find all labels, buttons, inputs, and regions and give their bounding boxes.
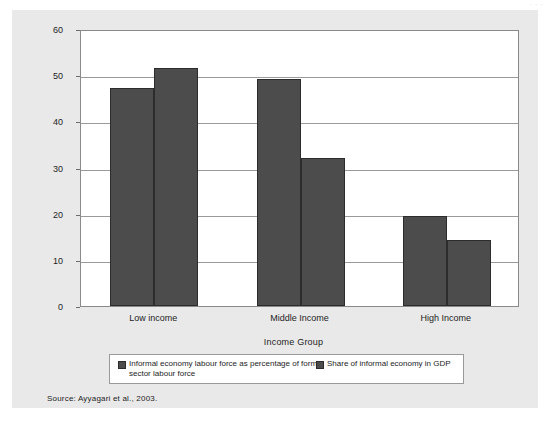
top-bleed-text: · · · — [0, 0, 549, 9]
plot-wrapper: Percentage 0102030405060 Low incomeMiddl… — [68, 30, 519, 307]
x-axis-title: Income Group — [68, 337, 519, 347]
chart-panel: Percentage 0102030405060 Low incomeMiddl… — [12, 10, 538, 408]
bar — [154, 68, 198, 306]
legend-swatch-icon — [118, 361, 126, 369]
y-tick-label: 30 — [23, 164, 63, 174]
y-tick-label: 10 — [23, 256, 63, 266]
legend-item-informal-labour-force: Informal economy labour force as percent… — [118, 359, 333, 379]
legend-swatch-icon — [316, 361, 324, 369]
plot-area — [80, 30, 519, 307]
x-tick-label: Low income — [129, 313, 177, 323]
y-tick-label: 40 — [23, 117, 63, 127]
bar-group — [403, 31, 491, 306]
bar — [403, 216, 447, 306]
x-tick-label: High Income — [421, 313, 472, 323]
x-tick-label: Middle Income — [270, 313, 329, 323]
legend: Informal economy labour force as percent… — [109, 354, 464, 384]
bar-group — [110, 31, 198, 306]
y-tick-label: 0 — [23, 302, 63, 312]
legend-item-informal-gdp-share: Share of informal economy in GDP — [316, 359, 466, 369]
bar-group — [257, 31, 345, 306]
y-tick-label: 50 — [23, 71, 63, 81]
bar — [257, 79, 301, 306]
legend-label: Informal economy labour force as percent… — [129, 359, 333, 379]
source-note: Source: Ayyagari et al., 2003. — [47, 394, 157, 403]
y-tick-mark — [76, 307, 80, 308]
bar — [110, 88, 154, 306]
figure-root: · · · Percentage 0102030405060 Low incom… — [0, 0, 549, 422]
bar — [301, 158, 345, 306]
legend-label: Share of informal economy in GDP — [327, 359, 451, 369]
y-tick-label: 20 — [23, 210, 63, 220]
y-tick-label: 60 — [23, 25, 63, 35]
bar — [447, 240, 491, 306]
